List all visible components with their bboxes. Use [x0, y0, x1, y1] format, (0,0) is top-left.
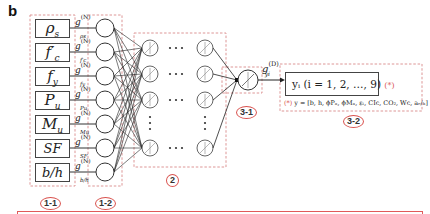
output-box: yᵢ (i = 1, 2, …, 9) (*) [285, 72, 379, 96]
tag-output: 3-2 [343, 115, 364, 128]
input-symbol: P [45, 91, 55, 109]
g-label-mu: g(N)Mu [75, 110, 91, 136]
input-pu: Pu [35, 91, 70, 110]
g-superscript: (N) [81, 133, 91, 140]
input-rho-s: ρs [35, 19, 70, 38]
g-superscript: (N) [81, 37, 91, 44]
g-label-fy: g(N)fy [75, 62, 91, 88]
tag-output-neuron: 3-1 [236, 106, 257, 119]
input-b-over-h: b/h [35, 163, 70, 182]
g-superscript: (N) [81, 85, 91, 92]
g-label-sf: g(N)SF [75, 134, 91, 160]
g-prefix: g [75, 113, 81, 123]
tag-input-layer: 1-1 [40, 197, 61, 210]
input-symbol: b/h [42, 165, 63, 180]
input-fy: fy [35, 67, 70, 86]
tag-normalization-layer: 1-2 [95, 197, 116, 210]
g-subscript: b/h [80, 177, 89, 183]
output-text: yᵢ (i = 1, 2, …, 9) [292, 78, 381, 90]
input-subscript: s [55, 29, 60, 39]
g-subscript: yi [265, 70, 270, 77]
g-prefix: g [75, 17, 81, 27]
input-symbol: SF [44, 141, 62, 156]
g-label-b-over-h: g(N)b/h [75, 158, 91, 184]
bottom-divider [17, 211, 423, 212]
g-prefix: g [75, 41, 81, 51]
bottom-divider-left-edge [17, 211, 18, 214]
input-subscript: y [53, 77, 58, 87]
bottom-divider-right-edge [422, 211, 423, 214]
input-fc-prime: f′c [35, 43, 70, 62]
output-vector: y = [b, h, ϕPₙ, ϕMₙ, εₜ, CIc, CO₂, Wc, a… [294, 99, 428, 107]
output-footnote: (*) y = [b, h, ϕPₙ, ϕMₙ, εₜ, CIc, CO₂, W… [284, 99, 428, 107]
input-subscript: u [55, 101, 61, 111]
output-neuron [238, 70, 258, 90]
g-prefix: g [75, 89, 81, 99]
g-prefix: g [75, 161, 81, 171]
input-subscript: c [54, 53, 59, 63]
normalization-neurons [96, 19, 114, 181]
footnote-marker: (*) [284, 99, 292, 107]
input-symbol: M [42, 115, 57, 133]
g-superscript: (N) [81, 61, 91, 68]
hidden-neurons [142, 40, 213, 156]
g-superscript: (N) [81, 157, 91, 164]
output-connections [213, 48, 237, 148]
input-sf: SF [35, 139, 70, 158]
panel-label: b [8, 2, 17, 19]
g-superscript: (N) [81, 13, 91, 20]
input-mu: Mu [35, 115, 70, 134]
g-label-fc-prime: g(N)f′c [75, 38, 91, 64]
g-prefix: g [75, 137, 81, 147]
input-symbol: ρ [46, 19, 55, 37]
g-label-pu: g(N)Pu [75, 86, 91, 112]
g-superscript: (N) [81, 109, 91, 116]
footnote-marker: (*) [384, 81, 394, 90]
dense-connections [114, 28, 142, 172]
g-prefix: g [75, 65, 81, 75]
g-superscript: (D) [268, 60, 278, 68]
g-label-rho-s: g(N)ρs [75, 14, 91, 40]
output-g-label: g(D)yi [262, 62, 270, 76]
tag-hidden-layers: 2 [166, 174, 179, 187]
input-subscript: u [57, 125, 63, 135]
